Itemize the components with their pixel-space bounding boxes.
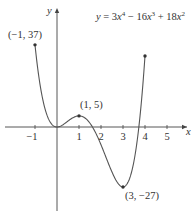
data-point xyxy=(77,114,80,117)
point-label: (1, 5) xyxy=(80,99,103,111)
x-tick-label: −1 xyxy=(26,131,37,142)
annotated-points: (−1, 37)(1, 5)(3, −27) xyxy=(8,29,159,202)
y-axis-arrow-icon xyxy=(55,8,59,13)
x-tick-label: 1 xyxy=(76,131,81,142)
x-tick-label: 5 xyxy=(164,131,169,142)
x-tick-label: 3 xyxy=(120,131,125,142)
data-point xyxy=(143,54,146,57)
equation-label: y = 3x4 − 16x3 + 18x2 xyxy=(95,10,185,22)
function-plot: −112345xy (−1, 37)(1, 5)(3, −27) y = 3x4… xyxy=(0,0,192,211)
curve xyxy=(35,45,145,187)
x-tick-label: 4 xyxy=(142,131,148,142)
point-label: (3, −27) xyxy=(125,190,159,202)
x-axis-label: x xyxy=(185,126,191,137)
point-label: (−1, 37) xyxy=(8,29,42,41)
data-point xyxy=(121,185,124,188)
data-point xyxy=(33,43,36,46)
y-axis-label: y xyxy=(46,5,52,16)
